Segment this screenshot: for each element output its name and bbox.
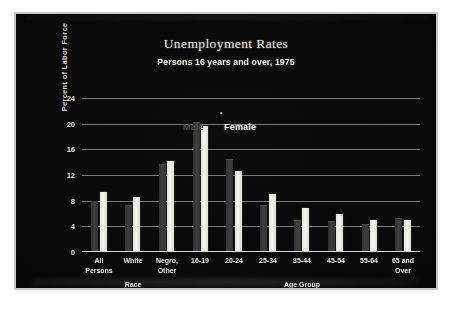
bar-female-negro-other <box>167 161 174 252</box>
x-tick-label-65-and-over: 65 andOver <box>379 256 427 275</box>
bar-female-all-persons <box>100 192 107 252</box>
legend-item-male: Male <box>183 122 204 132</box>
bar-female-65-and-over <box>404 220 411 252</box>
y-tick-label-16: 16 <box>67 145 75 154</box>
y-tick-label-20: 20 <box>67 119 75 128</box>
bar-male-35-44 <box>294 220 301 252</box>
chart-title: Unemployment Rates <box>16 36 436 52</box>
bar-female-35-44 <box>302 208 309 252</box>
group-label-age-group: Age Group <box>264 280 338 288</box>
bar-female-16-19 <box>201 126 208 252</box>
film-glare-bottom <box>33 278 419 286</box>
bar-female-25-34 <box>269 194 276 252</box>
bar-male-25-34 <box>260 205 267 252</box>
title-block: Unemployment Rates Persons 16 years and … <box>16 36 436 68</box>
y-tick-label-12: 12 <box>67 171 75 180</box>
bar-female-45-54 <box>336 214 343 252</box>
bar-female-55-64 <box>370 220 377 252</box>
y-tick-label-8: 8 <box>71 196 75 205</box>
legend-item-female: Female <box>224 122 256 132</box>
bar-male-white <box>125 205 132 252</box>
bar-female-20-24 <box>235 171 242 252</box>
x-axis-line <box>82 251 420 252</box>
film-glare-top <box>24 15 427 20</box>
y-tick-label-4: 4 <box>71 222 75 231</box>
footnote-marker-icon: • <box>220 109 222 116</box>
x-tick-line-2: Persons <box>75 266 123 276</box>
chart-subtitle: Persons 16 years and over, 1975 <box>33 55 419 68</box>
x-tick-line-2: Other <box>142 266 190 276</box>
slide-frame: Unemployment Rates Persons 16 years and … <box>14 12 438 290</box>
x-tick-line-2: Over <box>379 266 427 276</box>
bar-female-white <box>133 197 140 252</box>
y-axis-title: Percent of Labor Force <box>60 14 69 122</box>
bar-male-20-24 <box>226 159 233 252</box>
y-tick-label-24: 24 <box>67 94 75 103</box>
gridline-24 <box>82 98 420 99</box>
x-tick-line-1: 65 and <box>379 256 427 266</box>
bar-male-all-persons <box>91 201 98 252</box>
chart-canvas: Unemployment Rates Persons 16 years and … <box>16 14 436 288</box>
bar-male-65-and-over <box>395 218 402 252</box>
gridline-12 <box>82 175 420 176</box>
bar-male-55-64 <box>362 224 369 252</box>
gridline-16 <box>82 149 420 150</box>
bar-male-negro-other <box>159 164 166 252</box>
bar-male-45-54 <box>328 221 335 252</box>
group-label-race: Race <box>95 280 169 288</box>
bar-male-16-19 <box>193 122 200 252</box>
